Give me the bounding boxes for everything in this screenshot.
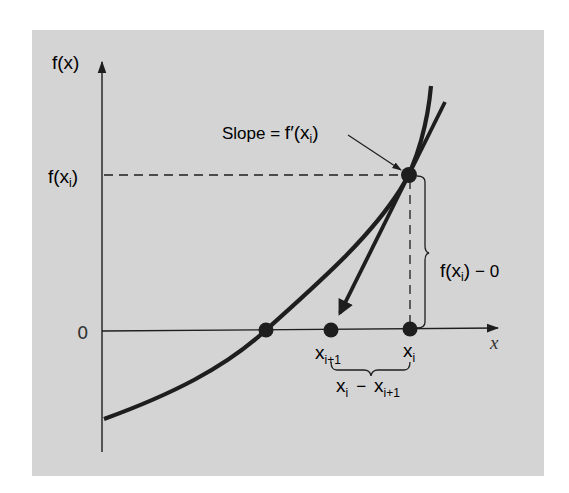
diff-xi1: x [374,375,384,396]
y-tick-fxi-open: (x [53,166,69,187]
slope-close: ) [312,122,318,143]
y-axis-label: f(x) [52,52,79,73]
height-close: ) [464,260,470,281]
diff-xi: x [336,375,346,396]
root-point [259,323,274,338]
diff-xi-sub: i [346,386,349,400]
xi1-x: x [315,342,325,363]
xi-plus-1-point [324,323,339,338]
xi-sub: i [413,351,416,365]
figure-panel [32,30,544,476]
xi-x: x [403,340,413,361]
y-tick-zero: 0 [77,322,88,343]
diff-minus: − [356,377,366,396]
y-tick-fxi: f(xi) [48,166,78,190]
x-axis-label: x [489,332,499,353]
y-label-paren: (x) [57,52,79,73]
diff-xi1-sub: i+1 [384,386,401,400]
xi1-sub: i+1 [325,353,342,367]
height-minus-zero: − 0 [475,262,499,281]
height-paren: (x [445,260,461,281]
slope-annotation: Slope = f′(xi) [222,122,319,146]
fxi-point [401,167,417,183]
y-tick-fxi-close: ) [72,166,78,187]
newton-raphson-diagram: f(x) f(xi) 0 x Slope = f′(xi) f(xi)− 0 x… [0,0,569,493]
slope-prime-paren: ′(x [290,122,310,143]
xi-point [403,322,418,337]
height-annotation: f(xi)− 0 [440,260,499,284]
slope-text: Slope = [222,124,285,143]
